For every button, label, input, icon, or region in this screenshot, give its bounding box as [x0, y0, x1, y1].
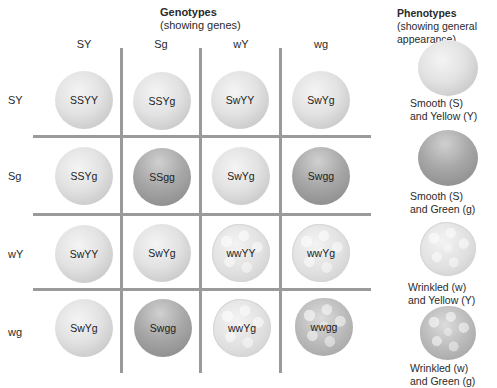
pea-cell: SSgg: [133, 148, 191, 206]
grid-line-horizontal: [33, 288, 371, 291]
pea-cell: wwYg: [213, 299, 271, 357]
genotype-label: SwYY: [226, 94, 255, 106]
genotype-label: SSgg: [149, 171, 175, 183]
genotype-label: SwYg: [70, 322, 97, 334]
phenotypes-heading: Phenotypes: [397, 7, 457, 19]
column-header: wg: [291, 38, 351, 50]
column-header: Sg: [131, 38, 191, 50]
genotype-label: SwYg: [307, 94, 334, 106]
column-header: wY: [211, 38, 271, 50]
grid-line-horizontal: [33, 135, 371, 138]
genotype-label: SSYY: [70, 94, 98, 106]
phenotypes-title: Phenotypes (showing general appearance): [397, 7, 477, 46]
phenotype-label: Wrinkled (w) and Green (g): [410, 362, 497, 388]
phenotype-line: Wrinkled (w): [410, 362, 468, 374]
grid-line-vertical: [279, 48, 282, 373]
genotype-label: wwYg: [307, 247, 335, 259]
column-header: SY: [54, 38, 114, 50]
pea-cell: SwYY: [211, 71, 269, 129]
genotype-label: wwYY: [226, 247, 255, 259]
genotype-label: wwYg: [228, 322, 256, 334]
pea-cell: SwYg: [133, 224, 191, 282]
pea-cell: wwgg: [295, 298, 353, 356]
pea-cell: Swgg: [292, 147, 350, 205]
phenotype-wrinkled-green-pea: [420, 306, 476, 360]
pea-cell: wwYY: [212, 224, 270, 282]
row-header: wY: [8, 248, 28, 260]
phenotype-label: Smooth (S) and Green (g): [410, 190, 497, 216]
genotype-label: wwgg: [311, 321, 338, 333]
pea-cell: SwYY: [55, 225, 113, 283]
grid-line-vertical: [120, 48, 123, 373]
genotypes-title: Genotypes (showing genes): [160, 6, 241, 32]
phenotype-line: Wrinkled (w): [408, 281, 466, 293]
genotype-label: Swgg: [150, 322, 176, 334]
phenotype-line: and Green (g): [410, 203, 475, 215]
pea-cell: Swgg: [134, 299, 192, 357]
pea-cell: SSYg: [133, 72, 191, 130]
pea-cell: SSYg: [55, 147, 113, 205]
pea-cell: SwYg: [212, 147, 270, 205]
genotype-label: SwYg: [227, 170, 254, 182]
genotypes-subtitle: (showing genes): [160, 19, 241, 31]
pea-cell: wwYg: [292, 224, 350, 282]
phenotype-line: Smooth (S): [410, 97, 463, 109]
grid-line-vertical: [199, 48, 202, 373]
phenotypes-subtitle-1: (showing general: [397, 20, 477, 32]
phenotype-label: Smooth (S) and Yellow (Y): [410, 97, 497, 123]
grid-line-horizontal: [33, 213, 371, 216]
phenotype-wrinkled-yellow-pea: [420, 222, 476, 276]
pea-cell: SSYY: [55, 71, 113, 129]
row-header: wg: [8, 326, 28, 338]
row-header: Sg: [8, 170, 28, 182]
phenotype-smooth-green-pea: [418, 130, 478, 186]
genotype-label: Swgg: [308, 170, 334, 182]
phenotype-line: and Green (g): [410, 375, 475, 387]
phenotype-smooth-yellow-pea: [418, 40, 478, 96]
phenotype-label: Wrinkled (w) and Yellow (Y): [408, 281, 497, 307]
genotype-label: SSYg: [71, 170, 98, 182]
phenotype-line: Smooth (S): [410, 190, 463, 202]
phenotype-line: and Yellow (Y): [410, 110, 477, 122]
row-header: SY: [8, 94, 28, 106]
phenotype-line: and Yellow (Y): [408, 294, 475, 306]
pea-cell: SwYg: [292, 71, 350, 129]
pea-cell: SwYg: [55, 299, 113, 357]
genotype-label: SSYg: [149, 95, 176, 107]
genotypes-heading: Genotypes: [160, 6, 217, 18]
genotype-label: SwYg: [148, 247, 175, 259]
genotype-label: SwYY: [70, 248, 99, 260]
